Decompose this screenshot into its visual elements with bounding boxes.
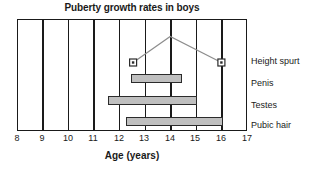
x-tick-10: 10	[60, 134, 76, 143]
height-spurt-marker-start-dot	[132, 61, 134, 63]
x-tick-16: 16	[213, 134, 229, 143]
category-label-height-spurt: Height spurt	[251, 57, 300, 66]
bar-testes	[108, 96, 198, 105]
chart-title: Puberty growth rates in boys	[17, 2, 247, 13]
height-spurt-line	[133, 37, 221, 63]
category-label-penis: Penis	[251, 79, 274, 88]
x-tick-14: 14	[162, 134, 178, 143]
category-label-pubic-hair: Pubic hair	[251, 121, 291, 130]
x-axis-title: Age (years)	[17, 150, 247, 161]
category-label-testes: Testes	[251, 101, 277, 110]
x-tick-8: 8	[9, 134, 25, 143]
x-tick-17: 17	[239, 134, 255, 143]
bar-pubic-hair	[126, 117, 223, 126]
x-tick-15: 15	[187, 134, 203, 143]
chart-container: Puberty growth rates in boys Height spur…	[0, 0, 333, 172]
x-tick-12: 12	[111, 134, 127, 143]
x-tick-11: 11	[85, 134, 101, 143]
bar-penis	[131, 74, 182, 83]
x-tick-13: 13	[136, 134, 152, 143]
height-spurt-marker-end-dot	[220, 61, 222, 63]
plot-area	[17, 19, 247, 131]
x-tick-9: 9	[34, 134, 50, 143]
